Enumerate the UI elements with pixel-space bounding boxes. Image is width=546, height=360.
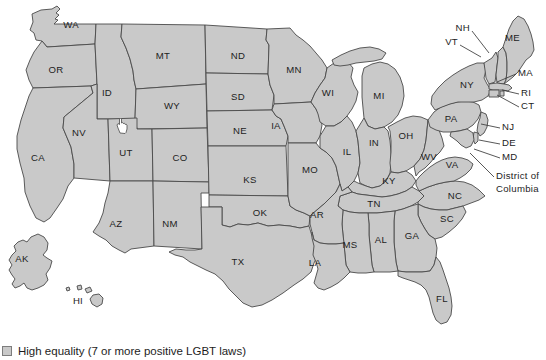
- state-label-WA: WA: [63, 19, 79, 30]
- state-label-MO: MO: [302, 164, 318, 175]
- state-label-KS: KS: [243, 174, 256, 185]
- state-label-IL: IL: [343, 146, 352, 157]
- state-shape-NM[interactable]: [153, 181, 209, 249]
- state-label-TN: TN: [367, 198, 380, 209]
- state-label-VA: VA: [446, 159, 459, 170]
- state-shape-CT[interactable]: [489, 90, 499, 97]
- state-label-IA: IA: [271, 120, 281, 131]
- state-label-NY: NY: [460, 79, 474, 90]
- state-label-KY: KY: [382, 175, 396, 186]
- callout-label-DC-line1: District of: [496, 170, 539, 181]
- leader-line-CT: [497, 95, 519, 107]
- state-shape-HI-oahu[interactable]: [77, 285, 82, 290]
- state-label-NM: NM: [162, 218, 178, 229]
- state-label-OK: OK: [253, 207, 268, 218]
- state-label-OH: OH: [399, 130, 414, 141]
- state-label-MN: MN: [286, 64, 302, 75]
- legend-label-high-equality: High equality (7 or more positive LGBT l…: [18, 346, 246, 358]
- state-shape-KS[interactable]: [208, 146, 288, 196]
- state-label-WV: WV: [421, 151, 437, 162]
- state-shape-VT[interactable]: [484, 52, 498, 84]
- leader-line-MD: [474, 149, 500, 158]
- callout-label-RI: RI: [521, 87, 531, 98]
- state-label-IN: IN: [369, 137, 379, 148]
- state-shape-HI-kauai[interactable]: [66, 287, 70, 291]
- callout-label-DE: DE: [502, 137, 516, 148]
- state-label-GA: GA: [405, 230, 420, 241]
- state-label-LA: LA: [309, 257, 322, 268]
- state-shape-MD[interactable]: [450, 129, 474, 148]
- state-label-MT: MT: [156, 50, 170, 61]
- callout-label-MD: MD: [502, 151, 518, 162]
- state-label-PA: PA: [445, 113, 458, 124]
- state-label-SD: SD: [231, 91, 245, 102]
- state-label-FL: FL: [436, 293, 448, 304]
- state-label-WY: WY: [164, 100, 180, 111]
- callout-label-NJ: NJ: [502, 121, 514, 132]
- state-label-UT: UT: [119, 147, 132, 158]
- state-shape-HI-big[interactable]: [90, 294, 103, 307]
- map-legend: High equality (7 or more positive LGBT l…: [2, 346, 246, 358]
- callout-label-VT: VT: [445, 36, 458, 47]
- callout-label-DC-line2: Columbia: [496, 183, 539, 194]
- state-label-WI: WI: [322, 87, 334, 98]
- state-label-AZ: AZ: [110, 218, 123, 229]
- state-label-TX: TX: [232, 256, 245, 267]
- state-label-HI: HI: [73, 295, 83, 306]
- state-label-NV: NV: [72, 127, 86, 138]
- state-label-SC: SC: [440, 213, 454, 224]
- callout-label-CT: CT: [521, 100, 534, 111]
- state-label-NE: NE: [233, 125, 247, 136]
- state-label-CA: CA: [31, 152, 45, 163]
- state-label-MS: MS: [343, 239, 358, 250]
- leader-line-DE: [479, 140, 500, 144]
- state-label-AR: AR: [310, 209, 324, 220]
- state-shape-RI[interactable]: [500, 91, 504, 96]
- leader-line-VT: [460, 45, 481, 57]
- callout-label-MA: MA: [518, 67, 533, 78]
- state-label-MI: MI: [373, 90, 384, 101]
- leader-line-NH: [472, 31, 489, 53]
- state-label-AK: AK: [15, 253, 29, 264]
- us-states-map-svg[interactable]: WA OR ID MT WY ND SD NE KS MN IA MO WI I…: [0, 0, 546, 360]
- legend-swatch-high-equality: [2, 346, 12, 356]
- state-shape-HI-maui[interactable]: [85, 287, 92, 293]
- state-label-OR: OR: [49, 64, 64, 75]
- state-shape-AZ[interactable]: [93, 181, 154, 253]
- leader-line-DC: [470, 153, 494, 177]
- callout-label-NH: NH: [456, 22, 470, 33]
- state-label-ID: ID: [102, 87, 112, 98]
- state-label-CO: CO: [173, 152, 188, 163]
- callout-label-ME: ME: [505, 32, 520, 43]
- us-map-container: WA OR ID MT WY ND SD NE KS MN IA MO WI I…: [0, 0, 546, 360]
- leader-line-RI: [502, 90, 519, 94]
- state-label-ND: ND: [231, 50, 245, 61]
- state-label-AL: AL: [375, 234, 388, 245]
- state-label-NC: NC: [448, 190, 462, 201]
